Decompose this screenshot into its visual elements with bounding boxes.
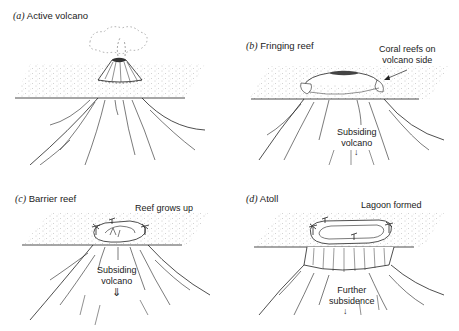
active-volcano-illustration <box>0 0 229 165</box>
atoll-illustration <box>229 165 459 331</box>
panel-atoll: (d) Atoll Lagoon formed Further subsiden… <box>229 165 459 331</box>
barrier-reef-illustration <box>0 165 229 331</box>
panel-barrier-reef: (c) Barrier reef Reef grows up Subsiding… <box>0 165 229 331</box>
panel-active-volcano: (a) Active volcano <box>0 0 229 165</box>
panel-fringing-reef: (b) Fringing reef Coral reefs on volcano… <box>229 0 459 165</box>
fringing-reef-illustration <box>229 0 459 165</box>
